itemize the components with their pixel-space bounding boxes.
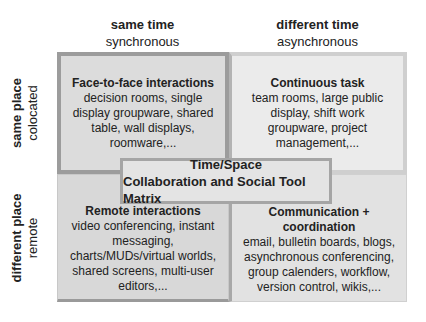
row-header-same-place: same place colocated: [0, 52, 50, 174]
matrix-title-box: Time/Space Collaboration and Social Tool…: [120, 158, 332, 204]
row-label: different place: [9, 194, 25, 283]
cell-body: video conferencing, instant messaging, c…: [70, 219, 216, 293]
cell-title: Communication + coordination: [242, 205, 396, 235]
cell-body: email, bulletin boards, blogs, asynchron…: [243, 235, 395, 294]
column-label: different time: [230, 16, 405, 33]
cell-body: team rooms, large public display, shift …: [252, 91, 383, 150]
cell-title: Continuous task: [242, 76, 393, 91]
column-sublabel: asynchronous: [277, 34, 358, 49]
column-sublabel: synchronous: [106, 34, 180, 49]
row-header-different-place: different place remote: [0, 174, 50, 302]
row-sublabel: colocated: [25, 85, 40, 141]
cell-title: Face-to-face interactions: [71, 76, 215, 91]
matrix-title-line1: Time/Space: [190, 156, 262, 173]
column-label: same time: [55, 16, 230, 33]
column-header-different-time: different time asynchronous: [230, 16, 405, 50]
column-header-same-time: same time synchronous: [55, 16, 230, 50]
cell-body: decision rooms, single display groupware…: [73, 91, 214, 150]
row-label: same place: [9, 78, 25, 148]
matrix-title-line2: Collaboration and Social Tool Matrix: [123, 173, 329, 207]
row-sublabel: remote: [25, 218, 40, 258]
